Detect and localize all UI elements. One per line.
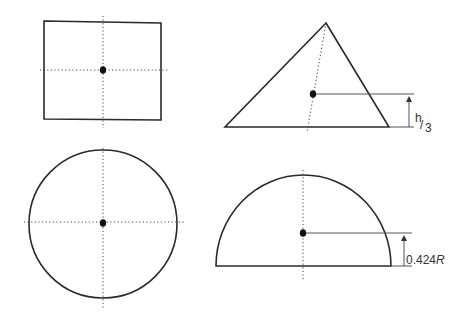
semicircle-label-number: 0.424 (406, 253, 436, 267)
centroid-diagram: h / 3 0.424R (0, 0, 469, 323)
triangle-centroid-dot (310, 90, 316, 98)
semicircle-centroid-dot (300, 229, 306, 237)
triangle-label-slash: / (420, 118, 424, 132)
semicircle-label-value: 0.424R (406, 253, 445, 267)
triangle-figure: h / 3 (225, 23, 432, 135)
semicircle-label-var: R (436, 253, 445, 267)
triangle-outline (225, 23, 389, 127)
circle-centroid-dot (100, 219, 106, 227)
circle-figure (24, 148, 184, 308)
square-centroid-dot (100, 66, 106, 74)
semicircle-figure: 0.424R (216, 170, 445, 281)
square-figure (40, 16, 168, 128)
arrow-up-icon (406, 96, 412, 102)
triangle-label-den: 3 (425, 121, 432, 135)
arrow-up-icon (401, 235, 407, 241)
